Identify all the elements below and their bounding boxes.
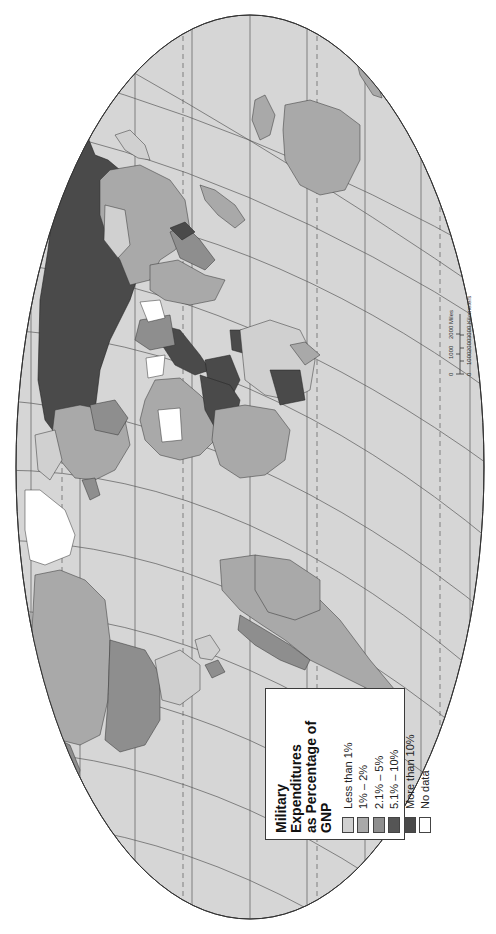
legend-item: No data bbox=[418, 697, 434, 833]
legend-label: Less than 1% bbox=[342, 742, 354, 809]
legend-title-line2: as Percentage of GNP bbox=[304, 697, 334, 833]
legend-item: Less than 1% bbox=[340, 697, 356, 833]
swatch-5-10 bbox=[388, 817, 400, 833]
region-iraq-nodata bbox=[146, 355, 165, 378]
scale-bar: 0 1000 2000 Miles 0 1000 2000 3000 Kilom… bbox=[440, 290, 480, 380]
legend-items: Less than 1% 1% – 2% 2.1% – 5% 5.1% – 10… bbox=[340, 697, 433, 833]
legend-label: More than 10% bbox=[404, 734, 416, 809]
scale-km-1000: 1000 bbox=[466, 352, 472, 365]
swatch-2-5 bbox=[373, 817, 385, 833]
swatch-more-than-10 bbox=[404, 817, 416, 833]
swatch-1-2 bbox=[357, 817, 369, 833]
swatch-no-data bbox=[419, 817, 431, 833]
legend-item: More than 10% bbox=[402, 697, 418, 833]
scale-bar-content: 0 1000 2000 Miles 0 1000 2000 3000 Kilom… bbox=[440, 290, 480, 380]
legend-label: 1% – 2% bbox=[357, 765, 369, 809]
scale-km-0: 0 bbox=[466, 373, 472, 376]
legend-label: 5.1% – 10% bbox=[388, 750, 400, 809]
legend-title-line1: Military Expenditures bbox=[274, 697, 304, 833]
scale-miles-2000: 2000 Miles bbox=[448, 310, 454, 339]
legend: Military Expenditures as Percentage of G… bbox=[265, 688, 405, 840]
legend-label: 2.1% – 5% bbox=[373, 756, 385, 809]
legend-item: 1% – 2% bbox=[356, 697, 372, 833]
scale-km-2000: 2000 bbox=[466, 339, 472, 352]
scale-miles-0: 0 bbox=[448, 373, 454, 376]
legend-item: 2.1% – 5% bbox=[371, 697, 387, 833]
scale-bar-line bbox=[440, 290, 480, 380]
scale-miles-1000: 1000 bbox=[448, 346, 454, 359]
swatch-less-than-1 bbox=[342, 817, 354, 833]
legend-item: 5.1% – 10% bbox=[387, 697, 403, 833]
region-canada bbox=[32, 570, 110, 745]
region-libya-nodata bbox=[158, 408, 182, 442]
legend-label: No data bbox=[419, 770, 431, 809]
legend-content: Military Expenditures as Percentage of G… bbox=[266, 689, 406, 841]
scale-km-3000: 3000 Kilometers bbox=[466, 296, 472, 339]
